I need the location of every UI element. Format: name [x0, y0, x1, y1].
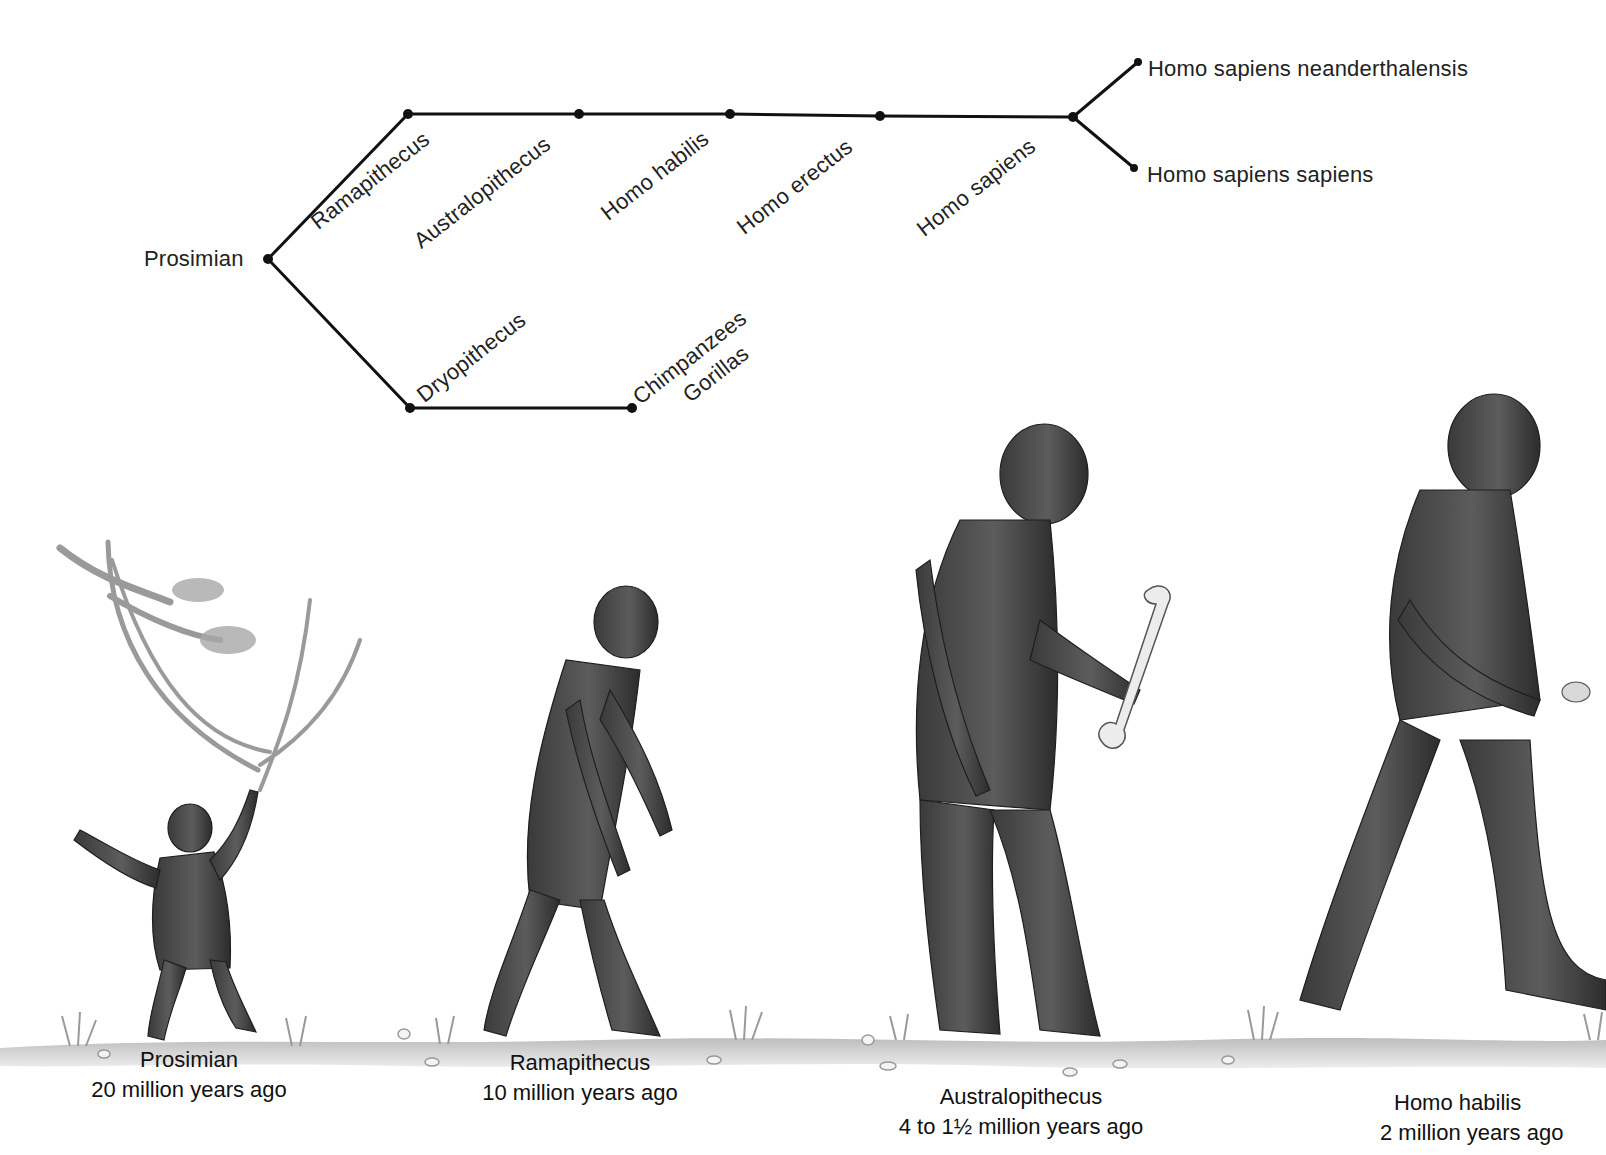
caption-age: 4 to 1½ million years ago	[866, 1112, 1176, 1142]
figure-homo-habilis	[1300, 394, 1606, 1010]
caption-name: Ramapithecus	[445, 1048, 715, 1078]
caption-ramapithecus: Ramapithecus 10 million years ago	[445, 1048, 715, 1108]
caption-name: Prosimian	[64, 1045, 314, 1075]
evolution-illustration: Prosimian Ramapithecus Australopithecus …	[0, 0, 1606, 1155]
tree-branches	[60, 542, 360, 790]
caption-prosimian: Prosimian 20 million years ago	[64, 1045, 314, 1105]
caption-name: Australopithecus	[866, 1082, 1176, 1112]
caption-age: 10 million years ago	[445, 1078, 715, 1108]
caption-name: Homo habilis	[1380, 1088, 1606, 1118]
figure-ramapithecus	[484, 586, 672, 1036]
bone-tool	[1099, 586, 1170, 748]
caption-age: 2 million years ago	[1380, 1118, 1606, 1148]
caption-australopithecus: Australopithecus 4 to 1½ million years a…	[866, 1082, 1176, 1142]
caption-homo-habilis: Homo habilis 2 million years ago	[1360, 1088, 1606, 1148]
hominid-illustrations	[0, 0, 1606, 1155]
caption-age: 20 million years ago	[64, 1075, 314, 1105]
figure-prosimian	[74, 790, 258, 1040]
stone-tool	[1562, 682, 1590, 702]
